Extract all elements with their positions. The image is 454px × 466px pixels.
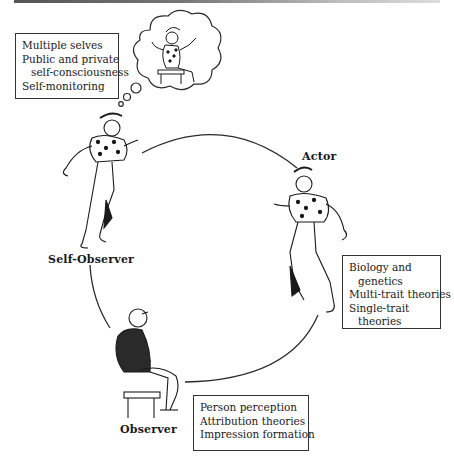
actor-jester-icon (274, 167, 347, 312)
self-observer-label: Self-Observer (48, 253, 134, 266)
topic-item: Biology and (349, 261, 434, 275)
topic-item: Attribution theories (200, 415, 302, 429)
topic-item: Multi-trait theories (349, 288, 434, 302)
topic-item: Single-trait (349, 302, 434, 316)
self-observer-topics-box: Multiple selves Public and private self-… (15, 33, 119, 99)
topic-item: self-consciousness (22, 66, 112, 80)
self-observer-jester-icon (63, 113, 138, 248)
observer-topics-box: Person perception Attribution theories I… (193, 395, 309, 451)
actor-label: Actor (302, 150, 336, 163)
topic-item: Self-monitoring (22, 80, 112, 94)
actor-topics-box: Biology and genetics Multi-trait theorie… (342, 255, 441, 329)
topic-item: theories (349, 315, 434, 329)
observer-label: Observer (120, 423, 177, 436)
observer-seated-man-icon (116, 309, 178, 418)
topic-item: Multiple selves (22, 39, 112, 53)
topic-item: Public and private (22, 53, 112, 67)
topic-item: Person perception (200, 401, 302, 415)
topic-item: Impression formation (200, 428, 302, 442)
topic-item: genetics (349, 275, 434, 289)
